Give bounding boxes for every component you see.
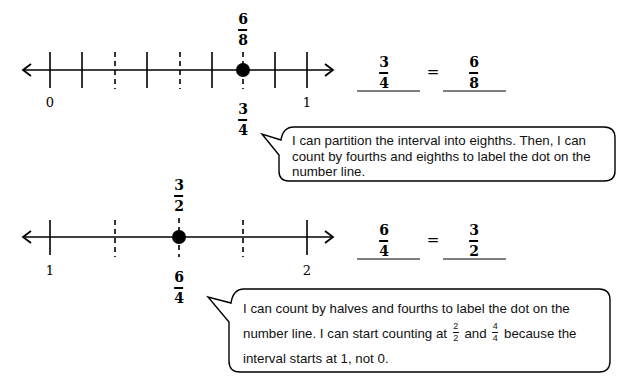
inline-fraction-2-2: 2 2 [453,322,459,343]
denominator: 4 [379,76,389,91]
denominator: 4 [174,291,184,306]
tick-label-end-b: 2 [303,263,311,278]
fraction-bar [175,287,184,289]
equation-b-left-fraction: 6 4 [379,223,389,259]
fraction-label-above-b: 3 2 [174,178,184,214]
denominator: 4 [493,334,498,343]
point-dot-b [172,230,186,244]
bubble-b-line-2-end: because the [504,326,576,341]
bubble-a-line-1: I can partition the interval into eighth… [292,133,591,149]
fraction-bar [380,72,389,74]
denominator: 8 [238,33,248,48]
fraction-bar [380,240,389,242]
tick-label-start-b: 1 [46,263,54,278]
equals-sign-a: = [427,63,440,81]
denominator: 4 [238,123,248,138]
bubble-a-line-3: number line. [292,164,591,180]
fraction-label-above-a: 6 8 [238,12,248,48]
equation-b-right-fraction: 3 2 [469,223,479,259]
fraction-bar [239,119,248,121]
equals-sign-b: = [427,231,440,249]
fraction-bar [470,240,479,242]
tick-label-end-a: 1 [303,95,311,110]
bubble-b-line-2: number line. I can start counting at 2 2… [243,321,576,346]
numerator: 6 [174,270,184,285]
speech-bubble-b-text: I can count by halves and fourths to lab… [243,296,576,371]
speech-bubble-a-text: I can partition the interval into eighth… [292,133,591,180]
denominator: 2 [453,334,458,343]
numerator: 4 [493,322,498,331]
numerator: 3 [238,102,248,117]
fraction-bar [239,29,248,31]
numerator: 6 [379,223,389,238]
bubble-b-line-2-mid: and [464,326,486,341]
fraction-bar [470,72,479,74]
bubble-a-line-2: count by fourths and eighths to label th… [292,149,591,165]
fraction-bar [175,195,184,197]
fraction-label-below-b: 6 4 [174,270,184,306]
denominator: 2 [469,244,479,259]
denominator: 4 [379,244,389,259]
number-line-a [23,52,333,89]
numerator: 6 [238,12,248,27]
point-dot-a [236,63,250,77]
bubble-b-line-3: interval starts at 1, not 0. [243,346,576,371]
bubble-b-line-1: I can count by halves and fourths to lab… [243,296,576,321]
numerator: 3 [174,178,184,193]
denominator: 2 [174,199,184,214]
fraction-label-below-a: 3 4 [238,102,248,138]
denominator: 8 [469,76,479,91]
numerator: 3 [469,223,479,238]
equation-a-left-fraction: 3 4 [379,55,389,91]
bubble-b-line-2-start: number line. I can start counting at [243,326,447,341]
inline-fraction-4-4: 4 4 [492,322,498,343]
equation-a-right-fraction: 6 8 [469,55,479,91]
numerator: 2 [453,322,458,331]
tick-label-start-a: 0 [46,95,54,110]
numerator: 3 [379,55,389,70]
numerator: 6 [469,55,479,70]
